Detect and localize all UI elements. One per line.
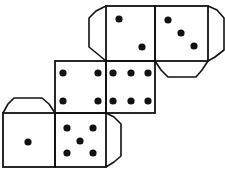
pip-dot (94, 69, 101, 76)
tab-above-one (3, 98, 55, 113)
pip-dot (89, 124, 96, 131)
face-four-outline (55, 61, 106, 113)
pip-dot (76, 137, 83, 144)
pip-dot (59, 97, 66, 104)
face-two-outline (106, 6, 155, 61)
pip-dot (94, 97, 101, 104)
pip-dot (127, 97, 134, 104)
dice-net-diagram: Dice net (0, 0, 225, 170)
face-three (155, 6, 208, 61)
pip-dot (24, 138, 31, 145)
tab-below-three (155, 61, 208, 77)
pip-dot (63, 149, 70, 156)
pip-dot (144, 69, 151, 76)
pip-dot (115, 15, 122, 22)
tab-left-of-two (89, 6, 106, 61)
face-six-outline (106, 61, 155, 113)
face-two (106, 6, 155, 61)
dice-net-svg (0, 0, 225, 170)
face-four (55, 61, 106, 113)
die-faces (3, 6, 208, 167)
pip-dot (63, 124, 70, 131)
pip-dot (109, 69, 116, 76)
fold-tabs (3, 6, 224, 167)
face-one (3, 113, 55, 167)
face-five (55, 113, 106, 167)
tab-right-of-three (208, 6, 224, 61)
pip-dot (127, 69, 134, 76)
pip-dot (177, 29, 184, 36)
pip-dot (144, 97, 151, 104)
pip-dot (109, 97, 116, 104)
pip-dot (190, 42, 197, 49)
pip-dot (138, 43, 145, 50)
pip-dot (59, 69, 66, 76)
pip-dot (89, 149, 96, 156)
face-six (106, 61, 155, 113)
tab-right-of-five (106, 113, 121, 167)
pip-dot (164, 16, 171, 23)
